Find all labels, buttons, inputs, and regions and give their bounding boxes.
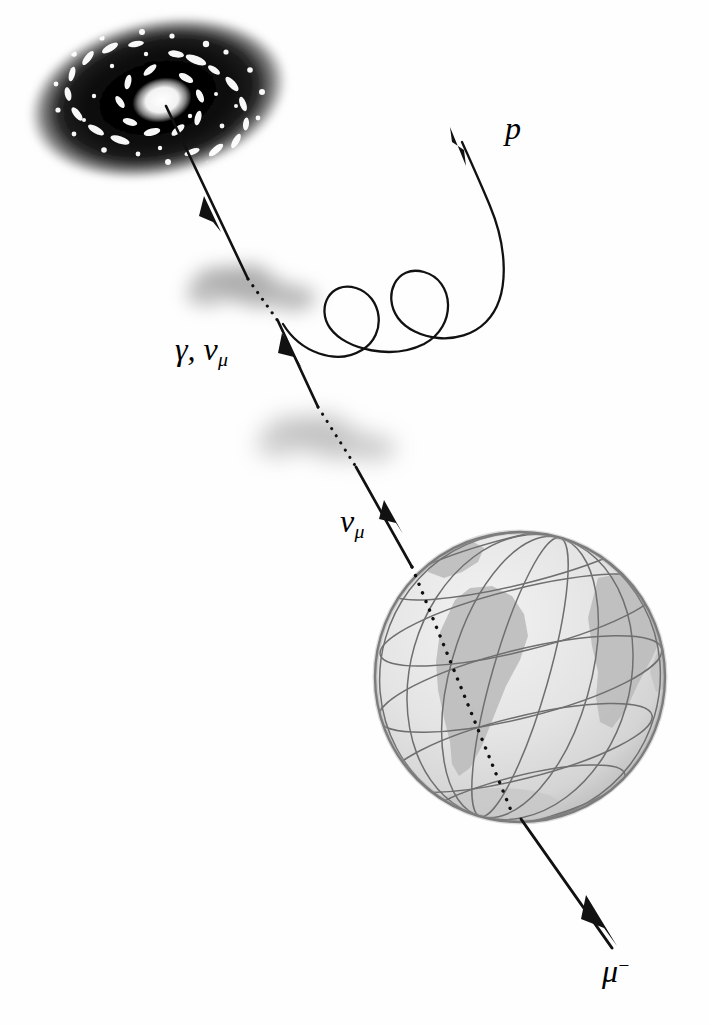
label-numu-subscript: μ <box>354 520 364 542</box>
label-proton-symbol: p <box>505 110 521 146</box>
track-segment-dotted-2 <box>318 407 356 467</box>
muon-track <box>521 819 612 948</box>
label-gamma-muon-neutrino: γ, νμ <box>175 333 228 370</box>
track-arrowhead-2 <box>278 333 302 368</box>
label-gamma-numu-subscript: μ <box>218 348 228 370</box>
label-muon: μ− <box>602 955 629 987</box>
label-muon-symbol: μ <box>602 953 618 989</box>
neutrino-astronomy-diagram: γ, νμ νμ p μ− <box>0 0 710 1026</box>
label-muon-superscript: − <box>618 955 629 976</box>
muon-arrowhead <box>581 895 617 946</box>
label-muon-neutrino: νμ <box>340 505 364 542</box>
proton-helix-track <box>283 142 504 357</box>
track-segment-dotted-1 <box>248 279 278 321</box>
track-segment-dotted-earth <box>412 567 512 813</box>
track-segment-solid-2 <box>278 321 318 407</box>
label-gamma-numu-symbol: γ, ν <box>175 331 218 367</box>
label-numu-symbol: ν <box>340 503 354 539</box>
track-segment-solid-1 <box>166 106 248 279</box>
label-proton: p <box>505 112 521 144</box>
